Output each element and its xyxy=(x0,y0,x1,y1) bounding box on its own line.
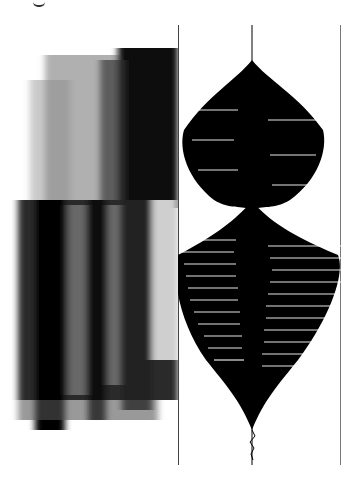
waveform-panel xyxy=(178,0,356,481)
spectrogram-panel xyxy=(0,0,178,481)
spectrogram-image xyxy=(0,0,178,481)
waveform-image xyxy=(178,0,356,481)
figure xyxy=(0,0,356,481)
